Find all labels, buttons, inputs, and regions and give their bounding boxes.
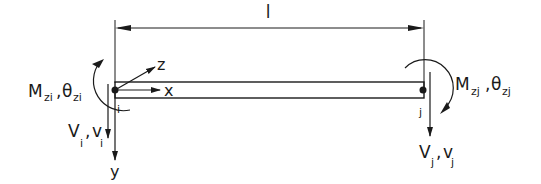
svg-text:j: j — [450, 156, 454, 169]
shear-label-i: V i , v i — [68, 121, 103, 150]
moment-label-i: M zi , θ zi — [28, 81, 82, 104]
svg-text:,: , — [85, 121, 90, 141]
svg-text:V: V — [419, 142, 431, 162]
y-axis-label: y — [110, 162, 119, 181]
moment-i-arc-icon — [93, 62, 130, 111]
moment-j-arc-icon — [405, 60, 453, 108]
svg-text:,: , — [485, 74, 490, 94]
beam-body — [115, 82, 424, 98]
svg-text:i: i — [80, 137, 83, 150]
z-axis-arrow-icon — [115, 67, 155, 90]
x-axis-label: x — [164, 81, 173, 100]
node-i-label: i — [117, 103, 120, 116]
beam-diagram: l i x z y V i , v i M zi , θ zi — [0, 0, 541, 184]
length-label: l — [266, 2, 271, 22]
svg-text:zj: zj — [471, 85, 480, 98]
node-j-dot — [420, 87, 427, 94]
svg-text:V: V — [68, 121, 80, 141]
moment-i-arrowhead-icon — [92, 59, 104, 68]
svg-text:i: i — [100, 137, 103, 150]
svg-text:zi: zi — [73, 91, 82, 104]
moment-label-j: M zj , θ zj — [455, 74, 511, 98]
svg-text:M: M — [28, 81, 43, 101]
svg-text:M: M — [455, 74, 470, 94]
node-j-label: j — [418, 106, 422, 119]
svg-text:zj: zj — [502, 85, 511, 98]
beam — [115, 82, 424, 98]
dimension-arrow-left-icon — [115, 25, 131, 31]
node-i: i x z y V i , v i M zi , θ zi — [28, 55, 173, 181]
length-dimension: l — [115, 2, 424, 90]
svg-text:θ: θ — [491, 74, 501, 94]
node-j: j V j , v j M zj , θ zj — [405, 60, 511, 169]
svg-text:zi: zi — [44, 91, 53, 104]
dimension-arrow-right-icon — [408, 25, 424, 31]
svg-text:,: , — [436, 142, 441, 162]
z-axis-label: z — [157, 55, 165, 74]
svg-text:,: , — [56, 81, 61, 101]
shear-label-j: V j , v j — [419, 142, 454, 169]
svg-text:j: j — [430, 156, 434, 169]
svg-text:θ: θ — [62, 81, 72, 101]
